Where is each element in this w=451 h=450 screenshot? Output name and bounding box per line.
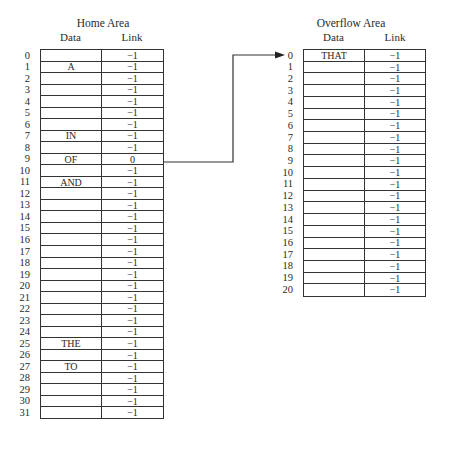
link-line [164,55,279,162]
arrowhead-icon [275,52,285,59]
overflow-link-arrow [0,0,451,450]
